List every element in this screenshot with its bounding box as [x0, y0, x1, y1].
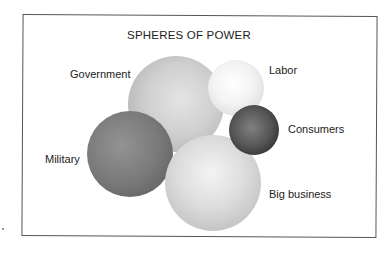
big-business-label: Big business — [269, 188, 331, 200]
military-label: Military — [45, 153, 80, 165]
consumers-label: Consumers — [288, 123, 344, 135]
diagram-title: SPHERES OF POWER — [0, 29, 390, 41]
stray-mark — [2, 228, 4, 230]
labor-label: Labor — [269, 64, 297, 76]
government-label: Government — [70, 68, 131, 80]
military-sphere — [87, 111, 173, 197]
consumers-sphere — [229, 105, 279, 155]
